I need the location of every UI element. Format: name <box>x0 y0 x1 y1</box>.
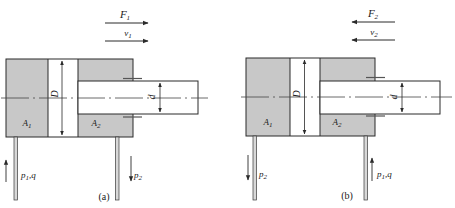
panel-b: F2 v2 D d A1 A2 p2 p1,q <box>241 7 452 202</box>
caption-b: (b) <box>341 190 353 202</box>
right-port-a: p2 <box>116 137 143 200</box>
bore-label-a: D <box>49 90 60 99</box>
force-arrow-a: F1 <box>105 8 148 23</box>
panel-a: F1 v1 D d A1 A2 p1,q <box>1 8 208 203</box>
velocity-arrow-b: v2 <box>352 27 395 40</box>
left-port-label-a: p1,q <box>20 170 36 182</box>
right-port-b: p1,q <box>364 136 392 200</box>
bore-label-b: D <box>291 90 302 99</box>
left-port-b: p2 <box>248 136 268 200</box>
right-port-label-a: p2 <box>133 170 143 182</box>
force-label-a: F1 <box>119 8 130 22</box>
left-port-a: p1,q <box>6 137 36 200</box>
velocity-arrow-a: v1 <box>105 28 148 41</box>
force-arrow-b: F2 <box>352 7 395 22</box>
force-label-b: F2 <box>367 7 379 21</box>
velocity-label-a: v1 <box>124 28 132 40</box>
left-port-label-b: p2 <box>258 169 268 181</box>
right-port-label-b: p1,q <box>376 169 392 181</box>
piston-rod-a <box>78 81 198 114</box>
velocity-label-b: v2 <box>370 27 378 39</box>
caption-a: (a) <box>98 191 109 203</box>
hydraulic-cylinder-diagram: F1 v1 D d A1 A2 p1,q <box>0 0 455 208</box>
piston-rod-b <box>320 81 440 114</box>
